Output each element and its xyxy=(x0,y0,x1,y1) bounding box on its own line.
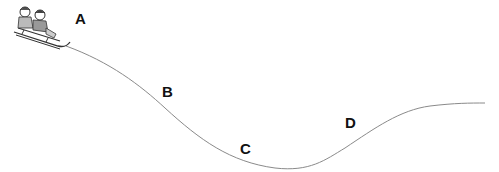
point-label-b: B xyxy=(162,84,173,99)
point-label-d: D xyxy=(345,115,356,130)
sled-with-children-icon xyxy=(14,7,70,49)
point-label-c: C xyxy=(240,141,251,156)
track-curve xyxy=(66,46,485,169)
point-label-a: A xyxy=(75,11,86,26)
